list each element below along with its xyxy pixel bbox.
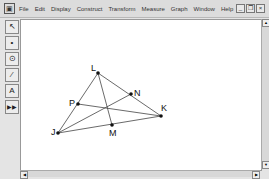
point-P[interactable] xyxy=(76,102,80,106)
label-L[interactable]: L xyxy=(91,63,96,73)
label-M[interactable]: M xyxy=(109,128,117,138)
segment-PK[interactable] xyxy=(78,104,161,116)
label-N[interactable]: N xyxy=(134,88,141,98)
point-M[interactable] xyxy=(110,123,114,127)
point-J[interactable] xyxy=(56,131,60,135)
point-L[interactable] xyxy=(96,71,100,75)
point-K[interactable] xyxy=(159,114,163,118)
triangle-figure: L N P K M J xyxy=(0,0,269,179)
label-K[interactable]: K xyxy=(161,103,167,113)
point-N[interactable] xyxy=(129,92,133,96)
label-P[interactable]: P xyxy=(69,98,75,108)
label-J[interactable]: J xyxy=(51,127,56,137)
